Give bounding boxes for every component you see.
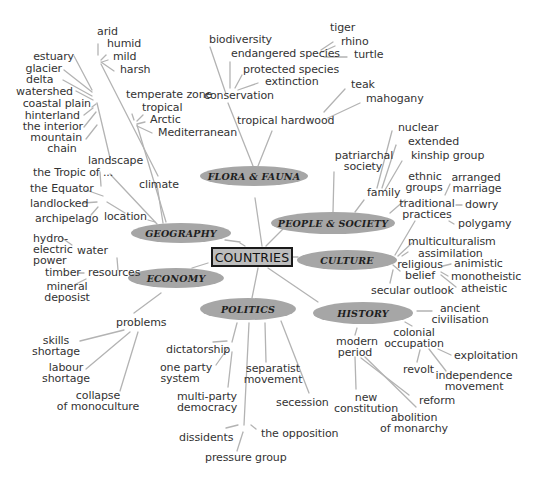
node-arranged-marriage-line2: marriage — [452, 183, 501, 195]
mind-map-canvas: FLORA & FAUNA GEOGRAPHY PEOPLE & SOCIETY… — [0, 0, 534, 489]
node-tropic-of: the Tropic of ... — [33, 167, 113, 179]
node-one-party-system-line2: system — [160, 373, 199, 385]
node-temperate-zone: temperate zone — [126, 89, 212, 101]
node-landlocked: landlocked — [30, 198, 88, 210]
node-tropical-hardwood: tropical hardwood — [237, 115, 334, 127]
node-patriarchal-society-line2: society — [344, 161, 382, 173]
node-nuclear: nuclear — [398, 122, 438, 134]
node-independence-movement-line2: movement — [445, 381, 504, 393]
node-abolition-of-monarchy-line2: of monarchy — [380, 423, 448, 435]
branch-politics: POLITICS — [200, 298, 296, 320]
node-secular-outlook: secular outlook — [371, 285, 454, 297]
node-kinship-group: kinship group — [411, 150, 484, 162]
node-extended: extended — [408, 136, 459, 148]
node-endangered-species: endangered species — [231, 48, 340, 60]
node-conservation: conservation — [204, 90, 274, 102]
node-teak: teak — [351, 79, 375, 91]
node-tiger: tiger — [330, 22, 355, 34]
node-mineral-deposit-line2: deposist — [44, 292, 90, 304]
node-dissidents: dissidents — [179, 432, 233, 444]
node-climate: climate — [139, 179, 179, 191]
node-pressure-group: pressure group — [205, 452, 287, 464]
node-harsh: harsh — [120, 64, 150, 76]
node-arctic: Arctic — [150, 114, 181, 126]
node-traditional-practices-line2: practices — [402, 209, 451, 221]
node-skills-shortage-line2: shortage — [32, 346, 80, 358]
node-modern-period-line2: period — [338, 347, 372, 359]
branch-geography: GEOGRAPHY — [131, 223, 231, 243]
node-revolt: revolt — [403, 364, 434, 376]
node-dictatorship: dictatorship — [166, 344, 230, 356]
node-mahogany: mahogany — [366, 93, 424, 105]
node-labour-shortage-line2: shortage — [42, 373, 90, 385]
branch-people-society: PEOPLE & SOCIETY — [271, 212, 395, 234]
node-ancient-civilisation-line2: civilisation — [431, 314, 488, 326]
node-multi-party-democracy-line2: democracy — [177, 402, 237, 414]
node-polygamy: polygamy — [458, 218, 511, 230]
node-location: location — [104, 211, 147, 223]
node-problems: problems — [116, 317, 166, 329]
branch-history: HISTORY — [313, 302, 413, 324]
branch-culture: CULTURE — [297, 250, 397, 270]
node-humid: humid — [107, 38, 141, 50]
central-topic: COUNTRIES — [211, 247, 293, 267]
node-secession: secession — [276, 397, 329, 409]
node-dowry: dowry — [465, 199, 498, 211]
node-water: water — [77, 245, 108, 257]
node-the-equator: the Equator — [30, 183, 94, 195]
node-mountain-chain-line2: chain — [47, 143, 76, 155]
node-extinction: extinction — [265, 76, 319, 88]
node-atheistic: atheistic — [461, 283, 507, 295]
node-mild: mild — [113, 51, 136, 63]
node-separatist-movement-line2: movement — [244, 374, 303, 386]
node-colonial-occupation-line2: occupation — [384, 338, 444, 350]
node-the-opposition: the opposition — [261, 428, 338, 440]
node-collapse-of-monoculture-line2: of monoculture — [57, 401, 139, 413]
node-timber: timber — [45, 267, 81, 279]
node-new-constitution-line2: constitution — [334, 403, 398, 415]
node-archipelago: archipelago — [35, 213, 98, 225]
node-ethnic-groups-line2: groups — [405, 182, 442, 194]
node-turtle: turtle — [354, 49, 383, 61]
node-reform: reform — [419, 395, 455, 407]
node-family: family — [367, 187, 400, 199]
node-mediterranean: Mediterranean — [158, 127, 237, 139]
node-rhino: rhino — [341, 36, 369, 48]
node-religious-belief-line2: belief — [405, 270, 435, 282]
node-animistic: animistic — [454, 258, 503, 270]
node-biodiversity: biodiversity — [209, 34, 272, 46]
branch-flora-fauna: FLORA & FAUNA — [200, 166, 308, 186]
node-exploitation: exploitation — [454, 350, 518, 362]
node-resources: resources — [88, 267, 140, 279]
branch-economy: ECONOMY — [128, 268, 224, 288]
